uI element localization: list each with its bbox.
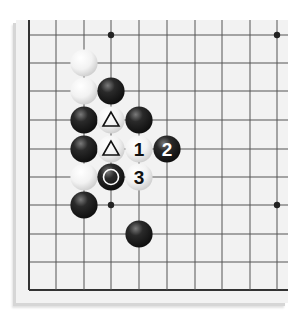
white-stone <box>70 49 97 76</box>
black-stone <box>70 191 97 218</box>
white-stone: 1 <box>125 135 152 162</box>
star-point <box>274 32 280 38</box>
white-stone <box>97 106 124 133</box>
go-board: 123 <box>16 20 288 303</box>
board-grid: 123 <box>16 20 288 303</box>
white-stone: 3 <box>125 163 152 190</box>
black-stone <box>70 135 97 162</box>
move-number-label: 1 <box>134 139 145 160</box>
black-stone <box>97 77 124 104</box>
stones: 123 <box>70 49 180 247</box>
black-stone <box>125 220 152 247</box>
move-number-label: 3 <box>134 167 145 188</box>
white-stone <box>70 77 97 104</box>
star-point <box>108 202 114 208</box>
black-stone <box>70 106 97 133</box>
black-stone <box>125 106 152 133</box>
black-stone <box>97 163 124 190</box>
white-stone <box>97 135 124 162</box>
black-stone: 2 <box>153 135 180 162</box>
star-point <box>274 202 280 208</box>
star-point <box>108 32 114 38</box>
move-number-label: 2 <box>162 139 173 160</box>
white-stone <box>70 163 97 190</box>
